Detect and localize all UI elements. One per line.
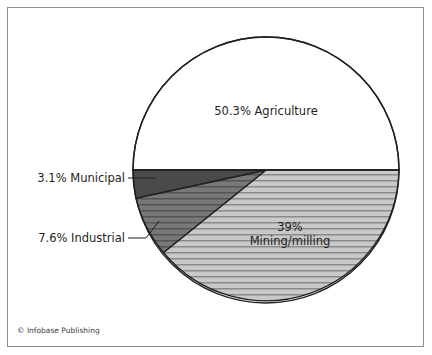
label-industrial: 7.6% Industrial [38,231,125,245]
label-mining-milling-name: Mining/milling [250,234,331,248]
figure-container: 50.3% Agriculture 39% Mining/milling 3.1… [0,0,432,355]
label-municipal: 3.1% Municipal [37,171,125,185]
label-agriculture: 50.3% Agriculture [214,104,317,118]
pie-chart: 50.3% Agriculture 39% Mining/milling 3.1… [0,0,432,355]
credit-text: © Infobase Publishing [17,326,100,335]
label-mining-milling-percent: 39% [277,220,303,234]
